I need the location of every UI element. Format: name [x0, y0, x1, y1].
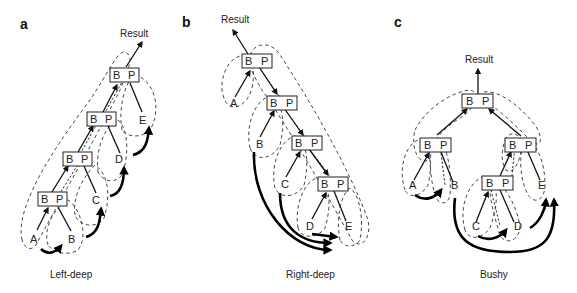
join-node: B P	[242, 54, 272, 68]
svg-text:B: B	[295, 137, 302, 149]
leaf-D: D	[115, 153, 123, 165]
flow-arrow	[41, 246, 61, 253]
join-node: B P	[462, 94, 493, 108]
edge	[58, 207, 71, 231]
query-plan-diagram: a Result B P B P	[0, 0, 577, 293]
flow-arrow	[110, 168, 124, 196]
svg-text:B: B	[66, 153, 73, 165]
edge	[312, 193, 326, 219]
panel-bushy: c Result B P B P	[394, 14, 554, 280]
edge	[260, 111, 274, 137]
leaf-E: E	[345, 220, 352, 232]
flow-arrow	[133, 128, 149, 155]
panel-left-deep: a Result B P B P	[20, 16, 156, 280]
svg-text:P: P	[261, 55, 268, 67]
result-arrow	[233, 30, 248, 54]
edge	[78, 126, 93, 152]
join-node: B P	[318, 177, 348, 191]
edge	[414, 153, 429, 180]
flow-arrow	[454, 198, 554, 252]
leaf-C: C	[92, 194, 100, 206]
edge	[52, 166, 68, 192]
edge	[334, 191, 346, 221]
leaf-E: E	[538, 179, 545, 191]
edge	[235, 71, 250, 97]
panel-letter-b: b	[182, 14, 191, 30]
join-node: B P	[420, 138, 451, 152]
join-node: B P	[267, 96, 297, 110]
join-node: B P	[505, 138, 536, 152]
leaf-A: A	[30, 233, 38, 245]
edge	[500, 190, 514, 222]
svg-text:P: P	[482, 95, 489, 107]
svg-text:P: P	[128, 69, 135, 81]
svg-text:B: B	[41, 193, 48, 205]
result-label: Result	[465, 54, 494, 65]
svg-text:P: P	[337, 178, 344, 190]
pipeline-hull	[338, 188, 361, 246]
svg-text:B: B	[270, 97, 277, 109]
svg-text:B: B	[509, 139, 516, 151]
edge	[284, 108, 303, 135]
edge	[437, 109, 467, 135]
svg-text:P: P	[286, 97, 293, 109]
svg-text:P: P	[311, 137, 318, 149]
svg-text:P: P	[105, 113, 112, 125]
edge	[527, 150, 540, 180]
join-node: B P	[63, 152, 92, 166]
flow-arrow	[86, 209, 101, 237]
edge	[103, 85, 117, 112]
caption-left-deep: Left-deep	[50, 269, 93, 280]
svg-text:B: B	[90, 113, 97, 125]
svg-text:B: B	[321, 178, 328, 190]
edge	[500, 152, 511, 176]
join-node: B P	[87, 112, 116, 126]
svg-text:B: B	[245, 55, 252, 67]
svg-text:P: P	[502, 177, 509, 189]
svg-text:P: P	[440, 139, 447, 151]
join-node: B P	[110, 68, 139, 82]
leaf-C: C	[281, 178, 289, 190]
caption-bushy: Bushy	[480, 269, 508, 280]
join-node: B P	[38, 192, 67, 206]
panel-right-deep: b Result B P B P	[182, 14, 369, 280]
panel-letter-a: a	[20, 16, 28, 32]
leaf-A: A	[409, 179, 417, 191]
edge	[130, 83, 142, 112]
caption-right-deep: Right-deep	[286, 269, 335, 280]
edge	[286, 152, 300, 177]
leaf-C: C	[472, 220, 480, 232]
edge	[476, 192, 488, 222]
pipeline-hull	[121, 75, 156, 136]
edge	[108, 126, 120, 153]
svg-text:B: B	[424, 139, 431, 151]
flow-arrow	[312, 234, 336, 237]
svg-text:P: P	[56, 193, 63, 205]
leaf-B: B	[451, 179, 458, 191]
leaf-E: E	[139, 114, 146, 126]
svg-text:B: B	[113, 69, 120, 81]
flow-arrow	[530, 200, 546, 228]
result-label: Result	[221, 14, 250, 25]
leaf-A: A	[230, 97, 238, 109]
svg-text:B: B	[486, 177, 493, 189]
join-node: B P	[292, 136, 322, 150]
panel-letter-c: c	[394, 14, 402, 30]
edge	[309, 149, 328, 175]
join-node: B P	[482, 176, 513, 190]
leaf-D: D	[306, 220, 314, 232]
result-label: Result	[120, 28, 149, 39]
svg-text:P: P	[525, 139, 532, 151]
leaf-D: D	[514, 220, 522, 232]
svg-text:B: B	[466, 95, 473, 107]
edge	[489, 109, 521, 136]
leaf-B: B	[256, 138, 263, 150]
pipeline-hull	[47, 200, 83, 253]
svg-text:P: P	[81, 153, 88, 165]
leaf-B: B	[68, 233, 75, 245]
